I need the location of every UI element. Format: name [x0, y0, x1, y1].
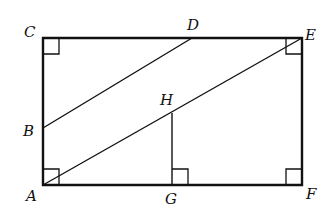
- segment-bd: [43, 38, 192, 128]
- label-g: G: [165, 190, 177, 208]
- right-angle-mark-f: [286, 169, 302, 185]
- label-d: D: [186, 16, 199, 34]
- label-c: C: [24, 23, 36, 41]
- label-e: E: [304, 26, 316, 44]
- label-h: H: [159, 91, 174, 109]
- label-f: F: [305, 185, 317, 203]
- label-a: A: [24, 187, 37, 205]
- geometry-diagram: C D E H B A G F: [0, 0, 335, 216]
- label-b: B: [22, 122, 34, 140]
- right-angle-mark-g: [172, 169, 188, 185]
- right-angle-mark-c: [43, 38, 59, 54]
